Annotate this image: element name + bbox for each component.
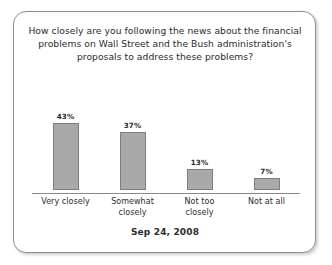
bar-item: 43% (32, 84, 99, 190)
chart-card: How closely are you following the news a… (13, 11, 316, 253)
chart-date-caption: Sep 24, 2008 (28, 227, 302, 237)
bar-item: 37% (99, 84, 166, 190)
bar-group: 43% 37% 13% 7% (32, 84, 300, 190)
bar-value-label: 13% (191, 158, 209, 167)
question-line-2: problems on Wall Street and the Bush adm… (28, 37, 302, 50)
bar-chart-plot: 43% 37% 13% 7% (32, 84, 300, 194)
bar-value-label: 7% (260, 167, 272, 176)
bar-rect (187, 169, 213, 190)
x-axis-line (32, 193, 300, 194)
category-label: Somewhat closely (99, 197, 166, 218)
category-label-line: closely (166, 208, 233, 219)
chart-question: How closely are you following the news a… (28, 24, 302, 64)
bar-value-label: 43% (57, 112, 75, 121)
bar-value-label: 37% (124, 121, 142, 130)
bar-rect (53, 123, 79, 190)
category-label: Very closely (32, 197, 99, 218)
bar-rect (120, 132, 146, 190)
category-label: Not at all (233, 197, 300, 218)
x-axis-category-labels: Very closely Somewhat closely Not too cl… (32, 197, 300, 218)
bar-item: 7% (233, 84, 300, 190)
bar-item: 13% (166, 84, 233, 190)
category-label-line: Not at all (233, 197, 300, 208)
category-label-line: Not too (166, 197, 233, 208)
bar-rect (254, 178, 280, 190)
question-line-1: How closely are you following the news a… (28, 24, 302, 37)
category-label-line: Somewhat (99, 197, 166, 208)
question-line-3: proposals to address these problems? (28, 50, 302, 63)
screenshot-root: How closely are you following the news a… (0, 0, 332, 265)
category-label-line: closely (99, 208, 166, 219)
category-label: Not too closely (166, 197, 233, 218)
category-label-line: Very closely (32, 197, 99, 208)
